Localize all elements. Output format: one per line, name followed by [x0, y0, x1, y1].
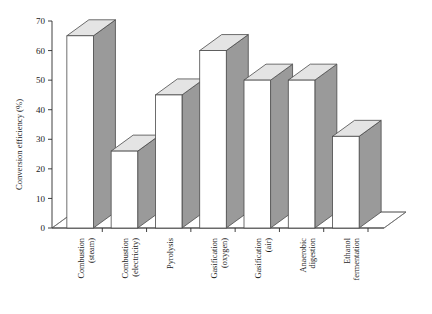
bar: [288, 64, 337, 228]
bar-front-face: [111, 151, 138, 228]
y-axis-title-text: Conversion efficiency (%): [14, 99, 24, 190]
x-axis-category-label-line: fermentation: [352, 237, 361, 280]
x-axis-category-label-line: Anaerobic: [299, 238, 308, 273]
y-axis-title: Conversion efficiency (%): [14, 99, 24, 190]
bar-front-face: [244, 80, 271, 228]
bar-front-face: [333, 136, 360, 228]
bar: [200, 35, 249, 228]
x-axis-category-label: Combustion(steam): [77, 237, 96, 278]
x-axis-category-label-line: Pyrolysis: [166, 238, 175, 269]
x-axis-category-label: Gasification(air): [254, 237, 273, 278]
chart-canvas: Conversion efficiency (%) 01020304050607…: [0, 0, 432, 314]
bar: [244, 64, 293, 228]
bar: [155, 79, 204, 228]
x-axis-category-label-line: (electricity): [131, 238, 140, 277]
bar-front-face: [67, 36, 94, 228]
y-tick-label: 0: [41, 223, 46, 233]
y-tick-label: 70: [36, 16, 46, 26]
bar: [333, 120, 382, 228]
x-axis-category-label-line: Gasification: [210, 237, 219, 278]
x-axis-ticks: [102, 228, 368, 232]
x-axis-category-label: Gasification(oxygen): [210, 237, 229, 278]
x-axis-category-label-line: digestion: [308, 237, 317, 268]
floor-right-depth-line: [384, 212, 406, 228]
x-axis-category-label: Anaerobicdigestion: [299, 237, 318, 272]
y-tick-label: 30: [36, 134, 46, 144]
bar-series: [67, 20, 381, 228]
x-axis-category-label: Pyrolysis: [166, 238, 175, 269]
bar-front-face: [288, 80, 315, 228]
x-axis-category-label-line: (air): [264, 238, 273, 253]
y-tick-label: 20: [36, 164, 46, 174]
y-tick-label: 50: [36, 75, 46, 85]
bar-front-face: [155, 95, 182, 228]
x-axis-category-label: Combustion(electricity): [121, 237, 140, 278]
y-tick-label: 10: [36, 194, 46, 204]
bar: [67, 20, 116, 228]
x-axis-category-label-line: Combustion: [77, 237, 86, 278]
x-axis-category-label-line: (oxygen): [220, 238, 229, 268]
bar-front-face: [200, 51, 227, 228]
x-axis-category-label-line: Ethanol: [343, 237, 352, 264]
y-tick-label: 60: [36, 46, 46, 56]
x-axis-category-label: Ethanolfermentation: [343, 237, 362, 280]
x-axis-category-label-line: (steam): [87, 238, 96, 263]
bar: [111, 135, 160, 228]
bar-side-face: [359, 120, 381, 228]
x-axis-category-label-line: Gasification: [254, 237, 263, 278]
y-axis-ticks: 010203040506070: [36, 16, 52, 233]
x-axis-category-label-line: Combustion: [121, 237, 130, 278]
y-tick-label: 40: [36, 105, 46, 115]
bar-chart-figure: Conversion efficiency (%) 01020304050607…: [0, 0, 432, 314]
x-axis-category-labels: Combustion(steam)Combustion(electricity)…: [77, 237, 361, 280]
